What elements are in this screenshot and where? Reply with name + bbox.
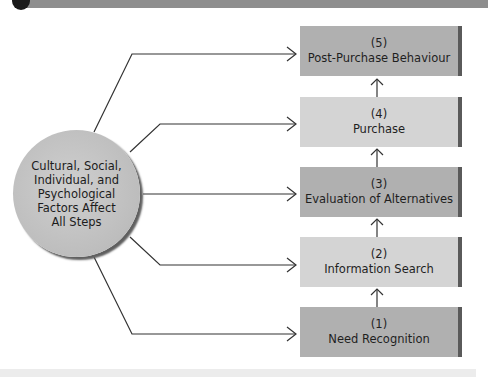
bottom-rule bbox=[0, 369, 476, 377]
influencing-factors-node: Cultural, Social, Individual, and Psycho… bbox=[13, 130, 140, 257]
step-5-post-purchase-behaviour: (5) Post-Purchase Behaviour bbox=[300, 26, 462, 76]
connector-to-step-1 bbox=[94, 257, 296, 334]
connector-to-step-5 bbox=[94, 54, 296, 132]
step-number: (1) bbox=[371, 317, 387, 332]
step-label: Information Search bbox=[324, 262, 434, 277]
factor-line: Individual, and bbox=[22, 173, 132, 187]
factor-line: Cultural, Social, bbox=[22, 159, 132, 173]
connector-to-step-4 bbox=[130, 124, 296, 152]
step-label: Post-Purchase Behaviour bbox=[308, 51, 450, 66]
step-3-evaluation-of-alternatives: (3) Evaluation of Alternatives bbox=[300, 167, 462, 217]
step-4-purchase: (4) Purchase bbox=[300, 97, 462, 147]
factor-line: All Steps bbox=[22, 215, 132, 229]
step-number: (5) bbox=[371, 36, 387, 51]
step-number: (3) bbox=[371, 177, 387, 192]
step-number: (4) bbox=[371, 107, 387, 122]
step-2-information-search: (2) Information Search bbox=[300, 237, 462, 287]
factor-line: Psychological bbox=[22, 187, 132, 201]
step-number: (2) bbox=[371, 247, 387, 262]
connector-to-step-2 bbox=[130, 237, 296, 265]
influencing-factors-label: Cultural, Social, Individual, and Psycho… bbox=[22, 159, 132, 229]
step-label: Need Recognition bbox=[328, 332, 429, 347]
factor-line: Factors Affect bbox=[22, 201, 132, 215]
step-label: Evaluation of Alternatives bbox=[305, 192, 453, 207]
step-label: Purchase bbox=[353, 122, 405, 137]
step-1-need-recognition: (1) Need Recognition bbox=[300, 307, 462, 357]
